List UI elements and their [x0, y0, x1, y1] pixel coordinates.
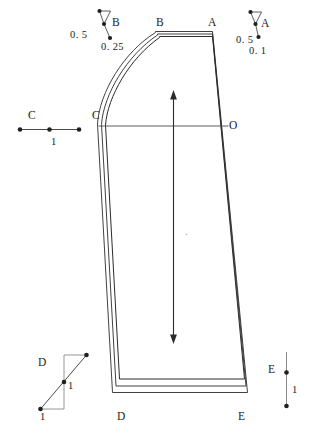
point-label-B: B [156, 17, 164, 28]
point-label-C: C [92, 110, 100, 121]
point-label-O: O [229, 120, 237, 131]
point-label-A: A [208, 17, 216, 28]
marker-E-label: E [268, 364, 275, 375]
marker-E-layer [0, 0, 310, 434]
point-label-D: D [117, 411, 125, 422]
marker-E-geometry [284, 352, 289, 408]
point-label-E: E [238, 411, 245, 422]
marker-E-dim-right: 1 [292, 384, 298, 395]
drawing-canvas: B 0. 5 0. 25 A 0. 5 0. 1 C 1 [0, 0, 310, 434]
